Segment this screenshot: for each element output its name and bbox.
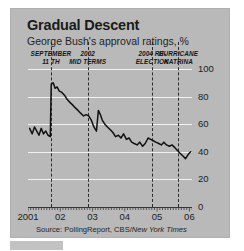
x-tick-label-06: 06 [174,211,204,222]
plot-area [28,69,192,207]
x-tick-label-04: 04 [110,211,140,222]
chart-panel: Gradual Descent George Bush's approval r… [11,9,229,237]
y-tick-label-100: 100 [198,63,214,74]
y-tick-label-80: 80 [198,91,209,102]
footer-stub-bar [10,241,63,250]
source-note: Source: PollingReport, CBS/New York Time… [36,225,187,234]
y-tick-label-60: 60 [198,118,209,129]
x-tick-label-2001: 2001 [13,211,43,222]
y-tick-label-20: 20 [198,173,209,184]
chart-title: Gradual Descent [27,17,139,33]
chart-figure: Gradual Descent George Bush's approval r… [0,0,244,251]
x-tick-label-03: 03 [78,211,108,222]
x-tick-label-02: 02 [45,211,75,222]
approval-rating-line [28,69,192,207]
x-tick-label-05: 05 [142,211,172,222]
y-tick-label-40: 40 [198,146,209,157]
